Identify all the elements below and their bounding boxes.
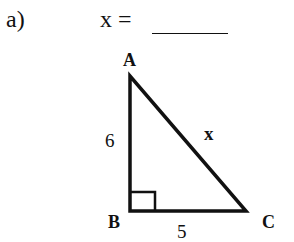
vertex-c-label: C: [262, 212, 275, 233]
vertex-a-label: A: [123, 50, 136, 71]
side-bc-label: 5: [177, 221, 187, 242]
side-ac-label: x: [204, 123, 214, 145]
right-angle-marker: [130, 192, 155, 211]
vertex-b-label: B: [108, 212, 120, 233]
right-triangle-diagram: [0, 0, 294, 242]
side-ab-label: 6: [105, 130, 115, 152]
